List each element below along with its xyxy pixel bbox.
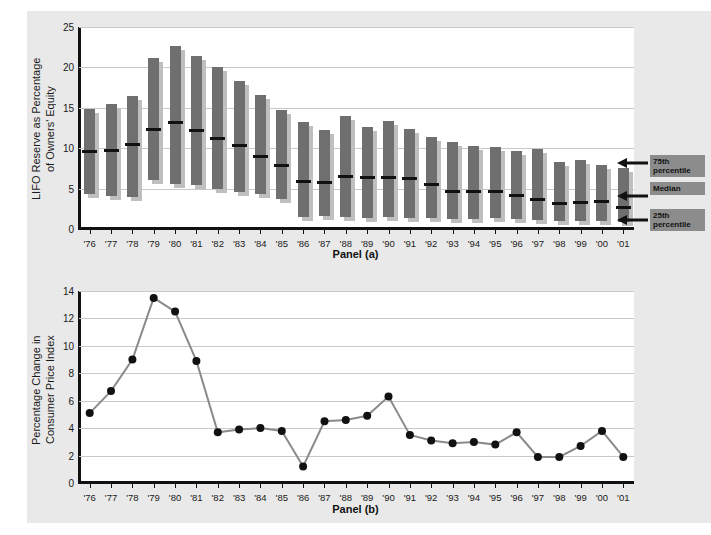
box-bar <box>490 147 501 219</box>
data-point-marker <box>107 387 115 395</box>
x-tick-mark <box>495 229 496 234</box>
x-tick-mark <box>389 483 390 488</box>
median-marker <box>530 198 545 201</box>
y-tick-label: 15 <box>48 102 74 113</box>
data-point-marker <box>470 438 478 446</box>
box-bar <box>468 146 479 220</box>
x-tick-label: '91 <box>404 492 416 503</box>
x-tick-mark <box>218 229 219 234</box>
x-tick-mark <box>517 229 518 234</box>
data-point-marker <box>534 453 542 461</box>
median-marker <box>104 149 119 152</box>
x-tick-mark <box>623 483 624 488</box>
data-point-marker <box>214 428 222 436</box>
data-point-marker <box>192 357 200 365</box>
x-tick-mark <box>90 229 91 234</box>
x-tick-mark <box>196 229 197 234</box>
x-tick-label: '88 <box>340 492 352 503</box>
median-marker <box>210 137 225 140</box>
y-tick-label: 0 <box>48 478 74 489</box>
box-bar <box>170 46 181 183</box>
gridline <box>79 27 634 28</box>
x-tick-label: '92 <box>425 492 437 503</box>
x-tick-label: '96 <box>510 492 522 503</box>
x-tick-mark <box>474 483 475 488</box>
y-tick-label: 6 <box>48 395 74 406</box>
median-marker <box>466 190 481 193</box>
y-tick-label: 10 <box>48 143 74 154</box>
median-marker <box>338 175 353 178</box>
y-tick-label: 0 <box>48 224 74 235</box>
x-tick-mark <box>154 229 155 234</box>
x-tick-mark <box>389 229 390 234</box>
panel-b-plot-area: 02468101214'76'77'78'79'80'81'82'83'84'8… <box>78 291 634 484</box>
x-tick-label: '85 <box>276 492 288 503</box>
median-marker <box>573 201 588 204</box>
x-tick-label: '79 <box>148 492 160 503</box>
data-point-marker <box>427 437 435 445</box>
data-point-marker <box>150 294 158 302</box>
x-tick-mark <box>581 229 582 234</box>
x-tick-mark <box>175 229 176 234</box>
data-point-marker <box>342 416 350 424</box>
x-tick-label: '86 <box>297 492 309 503</box>
x-tick-mark <box>410 229 411 234</box>
x-tick-label: '84 <box>254 492 266 503</box>
x-tick-mark <box>324 483 325 488</box>
box-bar <box>554 162 565 221</box>
annotation-text-line: percentile <box>653 220 702 229</box>
box-bar <box>532 149 543 220</box>
data-point-marker <box>171 308 179 316</box>
x-tick-mark <box>602 483 603 488</box>
box-bar <box>404 129 415 219</box>
median-marker <box>509 194 524 197</box>
x-tick-label: '87 <box>318 492 330 503</box>
box-bar <box>575 160 586 221</box>
x-tick-label: '95 <box>489 492 501 503</box>
x-tick-mark <box>346 483 347 488</box>
x-tick-mark <box>495 483 496 488</box>
y-tick-label: 2 <box>48 450 74 461</box>
x-tick-label: '81 <box>190 492 202 503</box>
data-point-marker <box>449 439 457 447</box>
annotation-text-line: 25th <box>653 211 702 220</box>
x-tick-mark <box>431 483 432 488</box>
median-marker <box>296 180 311 183</box>
data-point-marker <box>513 428 521 436</box>
annotation-arrow-icon <box>617 191 648 201</box>
x-tick-label: '76 <box>83 492 95 503</box>
data-point-marker <box>278 427 286 435</box>
x-tick-mark <box>623 229 624 234</box>
y-tick-label: 5 <box>48 183 74 194</box>
x-tick-mark <box>260 483 261 488</box>
median-marker <box>253 155 268 158</box>
x-tick-mark <box>196 483 197 488</box>
box-bar <box>447 142 458 220</box>
y-tick-label: 4 <box>48 423 74 434</box>
median-marker <box>232 144 247 147</box>
x-tick-mark <box>239 229 240 234</box>
x-tick-mark <box>303 483 304 488</box>
gridline <box>79 189 634 190</box>
data-point-marker <box>235 426 243 434</box>
data-point-marker <box>406 431 414 439</box>
median-marker <box>125 143 140 146</box>
y-axis-line <box>79 27 81 229</box>
x-tick-mark <box>346 229 347 234</box>
median-marker <box>274 164 289 167</box>
x-tick-mark <box>282 483 283 488</box>
y-tick-label: 14 <box>48 286 74 297</box>
x-tick-label: '97 <box>532 492 544 503</box>
x-tick-label: '98 <box>553 492 565 503</box>
x-axis-line <box>79 227 634 229</box>
x-tick-mark <box>111 229 112 234</box>
x-tick-label: '90 <box>382 492 394 503</box>
x-tick-mark <box>132 229 133 234</box>
x-tick-mark <box>260 229 261 234</box>
x-tick-mark <box>431 229 432 234</box>
x-tick-mark <box>367 229 368 234</box>
median-marker <box>82 150 97 153</box>
x-tick-mark <box>239 483 240 488</box>
box-bar <box>212 67 223 188</box>
median-marker <box>488 190 503 193</box>
